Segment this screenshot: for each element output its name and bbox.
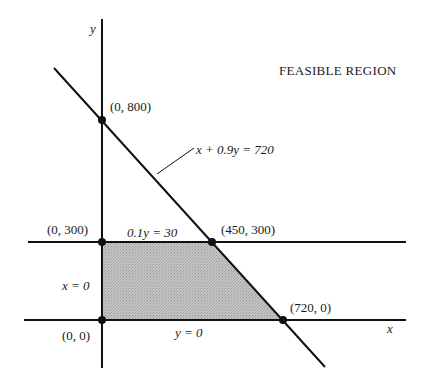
constraint-label-diagonal: x + 0.9y = 720 <box>195 142 274 157</box>
vertex-dot-450-300 <box>208 238 216 246</box>
vertex-dot-0-300 <box>98 238 106 246</box>
vertex-label-0-0: (0, 0) <box>62 328 90 343</box>
feasible-region-shading <box>102 242 283 320</box>
vertex-label-0-800: (0, 800) <box>110 99 151 114</box>
constraint-label-y-30: 0.1y = 30 <box>127 225 178 240</box>
diagram-title: FEASIBLE REGION <box>279 63 397 78</box>
vertex-label-450-300: (450, 300) <box>221 222 275 237</box>
y-axis-label: y <box>88 21 96 36</box>
leader-line <box>157 148 194 174</box>
vertex-dot-720-0 <box>279 316 287 324</box>
vertex-label-0-300: (0, 300) <box>47 222 88 237</box>
constraint-label-x-0: x = 0 <box>61 278 90 293</box>
constraint-label-y-0: y = 0 <box>173 325 203 340</box>
feasible-region-diagram: y x FEASIBLE REGION (0, 800) (0, 300) (4… <box>0 0 430 384</box>
vertex-label-720-0: (720, 0) <box>290 300 331 315</box>
vertex-dot-0-0 <box>98 316 106 324</box>
vertex-dot-0-800 <box>98 116 106 124</box>
x-axis-label: x <box>386 321 393 336</box>
